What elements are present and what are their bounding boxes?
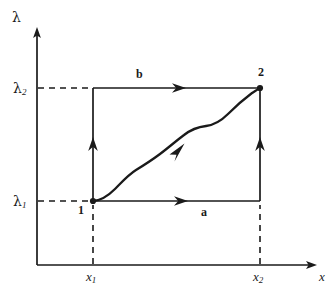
path-diagram-svg — [0, 0, 332, 290]
x-tick-label-x2: x2 — [253, 270, 263, 285]
path-rectangle-group — [93, 88, 260, 201]
state-2-label: 2 — [258, 66, 264, 78]
y-tick-label-lambda2: λ2 — [13, 81, 26, 97]
x-axis-label: x — [319, 270, 325, 283]
lambda-glyph: λ — [13, 193, 22, 209]
path-b-label: b — [136, 68, 143, 80]
state-1-label: 1 — [78, 204, 84, 216]
path-wavy-arrowhead — [170, 144, 185, 162]
x2-subscript: 2 — [259, 275, 264, 285]
path-wavy-curve — [93, 88, 260, 201]
lambda-glyph: λ — [13, 80, 22, 96]
x-tick-label-x1: x1 — [86, 270, 96, 285]
state-points-group — [90, 85, 263, 204]
figure-canvas: λ x λ2 λ1 x1 x2 1 2 b a — [0, 0, 332, 290]
wavy-path-group — [93, 88, 260, 201]
lambda1-subscript: 1 — [22, 200, 27, 210]
y-axis-label: λ — [12, 10, 21, 24]
path-a-label: a — [201, 206, 207, 218]
state-2-point — [257, 85, 263, 91]
x1-subscript: 1 — [92, 275, 97, 285]
axes-group — [33, 27, 317, 269]
lambda2-subscript: 2 — [22, 87, 27, 97]
y-tick-label-lambda1: λ1 — [13, 194, 26, 210]
state-1-point — [90, 198, 96, 204]
direction-arrowheads-group — [88, 83, 265, 206]
